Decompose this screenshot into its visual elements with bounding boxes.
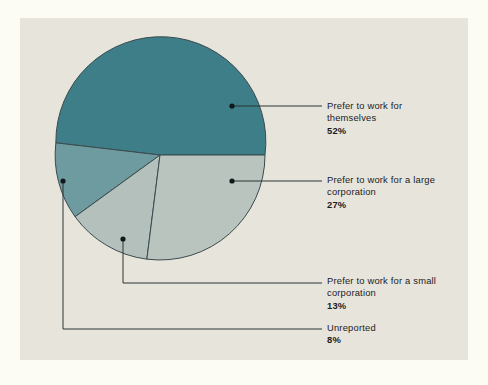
callout-label-unreported: Unreported 8% (327, 322, 376, 347)
callout-line-1: Prefer to work for a large (327, 174, 435, 186)
callout-line-1: Prefer to work for (327, 100, 402, 112)
callout-label-themselves: Prefer to work for themselves 52% (327, 100, 402, 137)
callout-label-large-corporation: Prefer to work for a large corporation 2… (327, 174, 435, 211)
callout-line-2: corporation (327, 186, 435, 198)
callout-line-2: corporation (327, 287, 436, 299)
callout-label-small-corporation: Prefer to work for a small corporation 1… (327, 275, 436, 312)
callout-line-1: Unreported (327, 322, 376, 334)
callout-line-2: themselves (327, 112, 402, 124)
callout-value: 52% (327, 125, 402, 137)
callout-value: 8% (327, 334, 376, 346)
callout-value: 13% (327, 300, 436, 312)
callout-line-1: Prefer to work for a small (327, 275, 436, 287)
chart-figure: Prefer to work for themselves 52% Prefer… (0, 0, 488, 385)
callout-value: 27% (327, 199, 435, 211)
